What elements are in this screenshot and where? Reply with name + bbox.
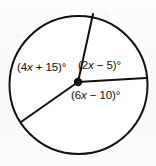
circle-diagram-svg [0,0,156,166]
angle-label-upper-right-prefix: (2 [78,59,88,71]
angle-label-upper-right: (2x − 5)° [78,60,121,72]
angle-label-lower-right-suffix: − 10)° [87,89,121,101]
center-point-dot [74,78,82,86]
angle-label-left: (4x + 15)° [17,62,66,74]
angle-label-left-suffix: + 15)° [33,61,67,73]
angle-label-lower-right: (6x − 10)° [71,90,120,102]
angle-label-lower-right-prefix: (6 [71,89,81,101]
geometry-figure: (4x + 15)° (2x − 5)° (6x − 10)° [0,0,156,166]
angle-label-upper-right-suffix: − 5)° [94,59,121,71]
angle-label-left-prefix: (4 [17,61,27,73]
